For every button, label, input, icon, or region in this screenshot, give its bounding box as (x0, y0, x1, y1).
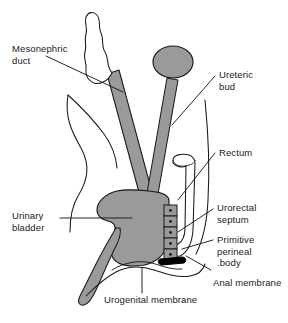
leader-anal-membrane (186, 256, 211, 270)
leader-ureteric-bud (172, 76, 215, 125)
mesonephric-duct-shaft (107, 70, 152, 196)
label-ureteric-bud: Ureteric bud (219, 69, 253, 92)
perineal-body (158, 257, 185, 265)
urorectal-septum (164, 205, 177, 260)
anatomical-figure: Mesonephric duct Ureteric bud Rectum Uro… (0, 0, 288, 323)
label-urinary-bladder: Urinary bladder (12, 210, 44, 233)
leader-urorectal-septum (178, 209, 213, 232)
label-mesonephric-duct: Mesonephric duct (12, 43, 68, 66)
label-primitive-perineal-body: Primitive perineal .body (217, 234, 254, 269)
label-urogenital-membrane: Urogenital membrane (104, 294, 197, 306)
label-anal-membrane: Anal membrane (213, 277, 281, 289)
metanephric-cap (84, 13, 112, 84)
label-rectum: Rectum (219, 147, 252, 159)
ureteric-bud-shaft (147, 78, 178, 194)
ureteric-bud-cap (153, 46, 193, 78)
label-urorectal-septum: Urorectal septum (217, 202, 256, 225)
